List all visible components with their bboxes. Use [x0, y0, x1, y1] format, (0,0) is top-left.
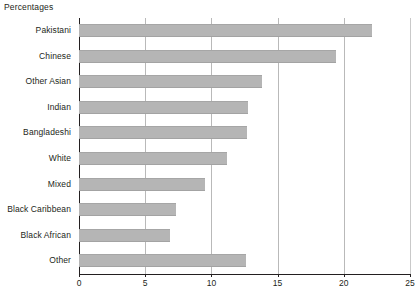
bar-row — [79, 248, 410, 274]
bar-row — [79, 197, 410, 223]
bar — [79, 75, 262, 88]
bar — [79, 152, 227, 165]
category-label: Mixed — [48, 172, 75, 198]
category-label: Other — [49, 248, 75, 274]
bar-row — [79, 18, 410, 44]
x-tick-label: 0 — [77, 278, 82, 288]
chart-title: Percentages — [4, 2, 53, 12]
x-tick-mark — [79, 274, 80, 277]
x-axis-line — [79, 274, 411, 275]
bar-chart: Percentages PakistaniChineseOther AsianI… — [0, 0, 420, 300]
bar — [79, 50, 336, 63]
bar-row — [79, 95, 410, 121]
category-label: Chinese — [39, 44, 75, 70]
x-tick-label: 15 — [273, 278, 282, 288]
bar — [79, 126, 247, 139]
x-tick-mark — [278, 274, 279, 277]
x-tick-label: 25 — [405, 278, 414, 288]
category-label: Other Asian — [25, 69, 75, 95]
category-label: Black Caribbean — [7, 197, 75, 223]
bar — [79, 203, 176, 216]
bar-row — [79, 69, 410, 95]
bar — [79, 24, 372, 37]
category-axis-labels: PakistaniChineseOther AsianIndianBanglad… — [0, 18, 75, 274]
bar — [79, 254, 246, 267]
bar-row — [79, 146, 410, 172]
bar — [79, 178, 205, 191]
x-tick-mark — [211, 274, 212, 277]
x-tick-label: 5 — [143, 278, 148, 288]
x-tick-mark — [145, 274, 146, 277]
category-label: Black African — [21, 223, 75, 249]
bar-row — [79, 44, 410, 70]
x-tick-label: 10 — [207, 278, 216, 288]
bar-row — [79, 120, 410, 146]
x-tick-mark — [410, 274, 411, 277]
category-label: Bangladeshi — [23, 120, 75, 146]
bar — [79, 229, 170, 242]
bar — [79, 101, 248, 114]
plot-area — [79, 18, 410, 274]
x-tick-mark — [344, 274, 345, 277]
category-label: Pakistani — [36, 18, 75, 44]
bar-series — [79, 18, 410, 274]
gridline-25 — [410, 18, 411, 274]
category-label: Indian — [47, 95, 75, 121]
x-tick-label: 20 — [339, 278, 348, 288]
bar-row — [79, 172, 410, 198]
category-label: White — [49, 146, 75, 172]
bar-row — [79, 223, 410, 249]
x-axis-tick-labels: 0510152025 — [0, 278, 420, 294]
